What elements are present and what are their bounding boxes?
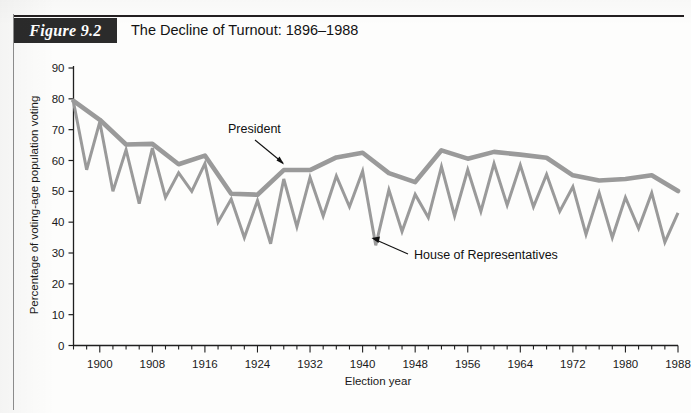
x-tick-label: 1924 xyxy=(245,358,271,370)
x-tick-label: 1988 xyxy=(665,358,691,370)
x-tick-label: 1940 xyxy=(350,358,376,370)
y-axis-title: Percentage of voting-age population voti… xyxy=(28,96,40,315)
x-tick-label: 1972 xyxy=(560,358,586,370)
y-tick-label: 90 xyxy=(52,62,65,74)
y-tick-label: 20 xyxy=(52,278,65,290)
turnout-line-chart: Percentage of voting-age population voti… xyxy=(0,0,691,413)
y-tick-label: 80 xyxy=(52,93,65,105)
annotation-president-arrowhead xyxy=(277,157,285,165)
y-tick-label: 60 xyxy=(52,155,65,167)
figure-container: Figure 9.2 The Decline of Turnout: 1896–… xyxy=(0,0,691,413)
x-tick-label: 1948 xyxy=(402,358,428,370)
y-tick-label: 40 xyxy=(52,216,65,228)
y-tick-label: 10 xyxy=(52,309,65,321)
y-tick-label: 50 xyxy=(52,185,65,197)
x-tick-label: 1900 xyxy=(87,358,113,370)
x-tick-label: 1932 xyxy=(297,358,323,370)
x-tick-label: 1956 xyxy=(455,358,481,370)
x-axis-title: Election year xyxy=(345,375,412,387)
x-tick-label: 1908 xyxy=(140,358,166,370)
x-tick-label: 1964 xyxy=(508,358,534,370)
series-line-house xyxy=(74,102,679,245)
annotation-president-label: President xyxy=(228,122,281,136)
series-line-president xyxy=(74,101,679,195)
annotation-house-leader-line xyxy=(374,239,408,254)
x-axis-ticks: 1900190819161924193219401948195619641972… xyxy=(74,346,691,370)
y-tick-label: 30 xyxy=(52,247,65,259)
y-tick-label: 0 xyxy=(58,340,64,352)
annotation-house-label: House of Representatives xyxy=(414,248,558,262)
x-tick-label: 1980 xyxy=(613,358,639,370)
x-tick-label: 1916 xyxy=(192,358,218,370)
y-axis-ticks: 0102030405060708090 xyxy=(52,62,74,352)
y-tick-label: 70 xyxy=(52,124,65,136)
